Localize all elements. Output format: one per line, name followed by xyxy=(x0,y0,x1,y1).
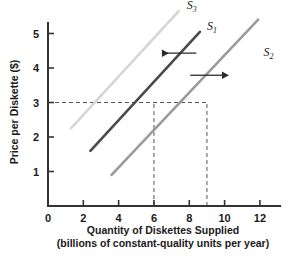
x-tick-label: 8 xyxy=(186,212,192,224)
supply-curve-s1 xyxy=(90,32,199,151)
y-tick-label: 5 xyxy=(33,28,39,40)
x-tick-label: 10 xyxy=(218,212,230,224)
x-tick-label: 0 xyxy=(45,212,51,224)
supply-curve-s2 xyxy=(112,20,259,175)
supply-curve-s3 xyxy=(71,11,179,128)
supply-curve-figure: 12345024681012 S1S2S3 Quantity of Disket… xyxy=(0,0,290,256)
axes-group xyxy=(47,22,281,206)
curve-label-s2: S2 xyxy=(263,45,273,61)
curve-label-s1: S1 xyxy=(207,19,217,35)
y-tick-label: 4 xyxy=(33,62,40,74)
x-axis-title-line2: (billions of constant-quality units per … xyxy=(57,237,269,249)
curve-label-s3: S3 xyxy=(187,0,197,14)
chart-canvas: 12345024681012 S1S2S3 Quantity of Disket… xyxy=(0,0,290,256)
y-tick-label: 3 xyxy=(33,97,39,109)
y-axis-title: Price per Diskette ($) xyxy=(8,60,20,164)
curve-labels-group: S1S2S3 xyxy=(187,0,274,61)
x-tick-label: 2 xyxy=(80,212,86,224)
supply-curves-group xyxy=(71,11,258,175)
reference-lines-group xyxy=(48,103,207,207)
x-tick-label: 6 xyxy=(151,212,157,224)
x-axis-title-line1: Quantity of Diskettes Supplied xyxy=(87,224,239,236)
x-tick-label: 4 xyxy=(116,212,123,224)
y-tick-label: 2 xyxy=(33,131,39,143)
y-tick-label: 1 xyxy=(33,166,39,178)
tick-labels-group: 12345024681012 xyxy=(33,28,266,225)
x-tick-label: 12 xyxy=(254,212,266,224)
